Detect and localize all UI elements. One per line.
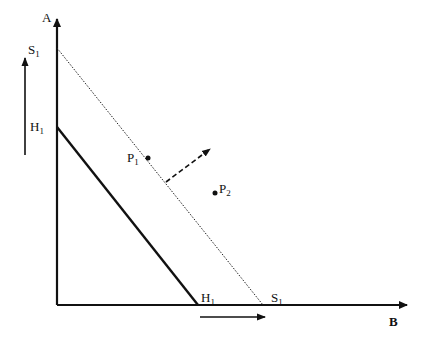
diagram-canvas: A B S1 H1 H1 S1 P1 P2 — [0, 0, 424, 339]
label-P1: P1 — [127, 150, 139, 167]
axis-label-B: B — [389, 314, 398, 329]
dashed-direction-arrow — [166, 149, 210, 182]
label-H1-horizontal: H1 — [201, 290, 215, 307]
line-S1 — [57, 48, 263, 305]
label-P2: P2 — [219, 181, 231, 198]
point-P2 — [213, 191, 218, 196]
point-P1 — [146, 156, 151, 161]
label-H1-vertical: H1 — [30, 119, 44, 136]
label-S1-horizontal: S1 — [271, 290, 283, 307]
axis-label-A: A — [42, 10, 52, 25]
label-S1-vertical: S1 — [28, 42, 40, 59]
